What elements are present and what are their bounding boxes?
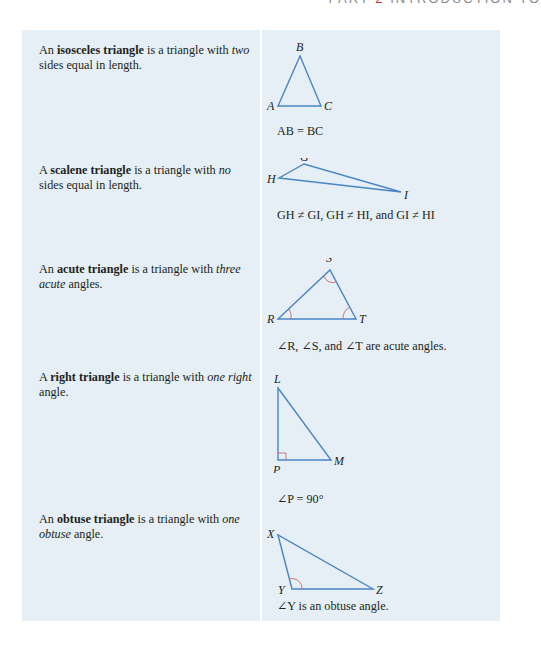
vertex-label-x: X [266,527,275,541]
def-suffix: angle. [71,527,104,541]
definition-right: A right triangle is a triangle with one … [39,370,254,400]
def-middle: is a triangle with [120,370,208,384]
acute-triangle-figure: S R T [262,258,500,338]
vertex-label-i: I [403,188,409,202]
vertex-label-r: R [266,312,275,326]
def-term: obtuse triangle [57,512,135,526]
def-emph: no [219,163,231,177]
definition-obtuse: An obtuse triangle is a triangle with on… [39,512,254,542]
def-middle: is a triangle with [144,43,232,57]
definitions-column: An isosceles triangle is a triangle with… [22,30,260,621]
running-head: PART 2 INTRODUCTION TO [328,0,541,6]
vertex-label-b: B [296,40,304,54]
isosceles-triangle-figure: B A C [262,30,500,110]
def-middle: is a triangle with [128,262,216,276]
vertex-label-y: Y [278,583,286,597]
vertex-label-t: T [359,312,367,326]
scalene-caption: GH ≠ GI, GH ≠ HI, and GI ≠ HI [277,208,435,223]
def-suffix: sides equal in length. [39,178,142,192]
def-term: right triangle [50,370,119,384]
def-term: scalene triangle [50,163,131,177]
def-term: acute triangle [57,262,128,276]
definition-isosceles: An isosceles triangle is a triangle with… [39,43,254,73]
def-prefix: A [39,370,50,384]
def-suffix: sides equal in length. [39,58,142,72]
def-prefix: An [39,512,57,526]
def-emph: two [232,43,250,57]
def-suffix: angle. [39,385,68,399]
def-prefix: An [39,262,57,276]
vertex-label-m: M [333,454,345,468]
vertex-label-p: P [272,463,281,473]
part-label: PART [328,0,369,6]
vertex-label-l: L [273,373,281,386]
def-prefix: A [39,163,50,177]
section-title: INTRODUCTION TO [390,0,541,6]
def-term: isosceles triangle [57,43,144,57]
definition-acute: An acute triangle is a triangle with thr… [39,262,254,292]
vertex-label-a: A [266,99,275,110]
def-middle: is a triangle with [131,163,219,177]
vertex-label-h: H [266,172,277,186]
def-suffix: angles. [65,277,102,291]
obtuse-triangle-figure: X Y Z [262,520,500,600]
figures-column: B A C AB = BC G H I GH ≠ GI, GH ≠ HI, an… [262,30,500,621]
triangle-types-panel: An isosceles triangle is a triangle with… [22,30,500,621]
definition-scalene: A scalene triangle is a triangle with no… [39,163,254,193]
vertex-label-s: S [326,258,332,265]
def-prefix: An [39,43,57,57]
right-triangle-figure: L P M [262,373,500,473]
vertex-label-c: C [324,99,333,110]
vertex-label-z: Z [376,583,383,597]
part-number: 2 [375,0,384,6]
def-middle: is a triangle with [134,512,222,526]
isosceles-caption: AB = BC [277,124,323,139]
vertex-label-g: G [300,158,309,164]
acute-caption: ∠R, ∠S, and ∠T are acute angles. [277,339,447,354]
right-caption: ∠P = 90° [277,492,324,507]
obtuse-caption: ∠Y is an obtuse angle. [277,599,389,614]
def-emph: one right [207,370,251,384]
